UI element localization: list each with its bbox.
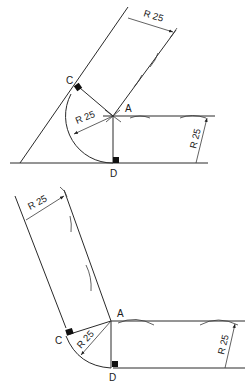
construction-arc [134, 75, 142, 87]
point-label-D: D [110, 168, 117, 179]
right-angle-marker [65, 328, 74, 336]
diagram-canvas: R 25 R 25 R 25 C A D R 25 [0, 0, 251, 387]
construction-arc [118, 319, 154, 325]
offset-tick [170, 28, 177, 38]
figure-top: R 25 R 25 R 25 C A D [10, 7, 215, 179]
angled-line [20, 7, 128, 163]
point-label-C: C [66, 75, 73, 86]
construction-arc [70, 216, 71, 232]
parallel-line [113, 30, 176, 116]
offset-label: R 25 [142, 7, 164, 23]
angled-line [15, 196, 66, 328]
point-label-A: A [125, 103, 132, 114]
figure-bottom: R 25 R 25 R 25 C A D [15, 187, 245, 383]
right-angle-marker [113, 157, 119, 163]
construction-arc [86, 265, 91, 291]
point-label-D: D [109, 372, 116, 383]
parallel-line [64, 190, 111, 321]
point-label-C: C [55, 335, 62, 346]
radius-label: R 25 [74, 108, 97, 126]
point-label-A: A [117, 308, 124, 319]
offset-label: R 25 [26, 193, 49, 212]
right-angle-marker [112, 361, 118, 367]
fillet-arc [66, 94, 113, 163]
